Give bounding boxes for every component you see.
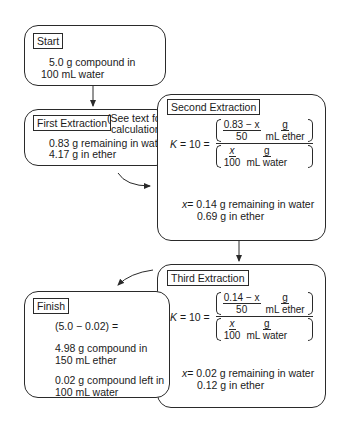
second-result-line-2: 0.69 g in ether — [197, 210, 264, 222]
first-extraction-box: First Extraction (See text for calculati… — [24, 109, 170, 166]
third-result-line-1: x= 0.02 g remaining in water — [182, 367, 314, 379]
finish-line-4: 0.02 g compound left in — [55, 374, 164, 386]
third-extraction-box: Third Extraction K = 10 = 0.14 − x50 gmL… — [157, 264, 326, 408]
first-extraction-label: First Extraction — [33, 115, 111, 131]
finish-line-5: 100 mL water — [55, 386, 118, 398]
numerator-term: 0.14 − x50 gmL ether — [216, 292, 313, 315]
second-extraction-box: Second Extraction K = 10 = 0.83 − x50 gm… — [157, 94, 326, 241]
second-k-equation: K = 10 = 0.83 − x50 gmL ether x100 gmL w… — [170, 119, 313, 168]
third-k-equation: K = 10 = 0.14 − x50 gmL ether x100 gmL w… — [170, 292, 313, 341]
second-extraction-label: Second Extraction — [167, 99, 260, 115]
start-box: Start 5.0 g compound in 100 mL water — [24, 25, 166, 86]
denominator-term: x100 gmL water — [216, 318, 313, 341]
finish-line-1: (5.0 − 0.02) = — [55, 320, 118, 332]
fraction-bar — [216, 316, 313, 317]
start-label: Start — [33, 33, 63, 49]
fraction-bar — [216, 143, 313, 144]
second-result-line-1: x= 0.14 g remaining in water — [182, 198, 314, 210]
first-line-2: 4.17 g in ether — [49, 148, 116, 160]
denominator-term: x100 gmL water — [216, 145, 313, 168]
finish-line-3: 150 mL ether — [55, 354, 116, 366]
third-extraction-label: Third Extraction — [167, 270, 249, 286]
finish-box: Finish (5.0 − 0.02) = 4.98 g compound in… — [24, 291, 170, 398]
finish-line-2: 4.98 g compound in — [55, 342, 147, 354]
start-line-2: 100 mL water — [41, 68, 104, 80]
start-line-1: 5.0 g compound in — [49, 56, 135, 68]
k-symbol: K — [170, 138, 177, 150]
arrow-third-to-finish — [118, 270, 153, 285]
k-symbol: K — [170, 311, 177, 323]
arrow-first-to-second — [118, 173, 150, 186]
third-result-line-2: 0.12 g in ether — [197, 379, 264, 391]
numerator-term: 0.83 − x50 gmL ether — [216, 119, 313, 142]
finish-label: Finish — [33, 298, 69, 314]
